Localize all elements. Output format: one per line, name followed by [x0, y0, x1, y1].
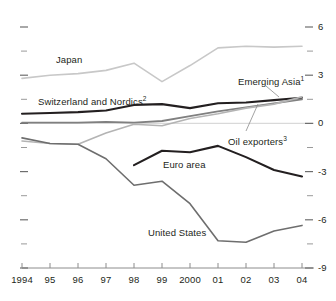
series-label-text: Japan [56, 54, 82, 65]
line-chart-plot [0, 0, 336, 301]
series-line-euro-area [134, 146, 302, 177]
x-axis-tick-label: 95 [45, 274, 56, 285]
x-axis-tick-label: 2000 [179, 274, 201, 285]
y-axis-tick-label: -6 [318, 214, 327, 225]
x-axis-tick-label: 98 [129, 274, 140, 285]
series-label-euro-area: Euro area [163, 159, 206, 170]
series-label-footnote: 2 [143, 95, 147, 102]
y-axis-tick-label: 3 [318, 69, 323, 80]
series-label-united-states: United States [148, 227, 206, 238]
series-label-text: Switzerland and Nordics [38, 96, 143, 107]
x-axis-tick-label: 01 [213, 274, 224, 285]
series-label-footnote: 1 [301, 75, 305, 82]
leader-line-emerging-asia [266, 86, 279, 97]
x-axis-tick-label: 99 [157, 274, 168, 285]
chart-container: 630-3-6-919949596979899200001020304Japan… [0, 0, 336, 301]
x-axis-tick-label: 97 [101, 274, 112, 285]
series-label-text: Oil exporters [228, 136, 283, 147]
series-label-switzerland-and-nordics: Switzerland and Nordics2 [38, 96, 147, 107]
series-label-oil-exporters: Oil exporters3 [228, 136, 287, 147]
series-label-text: Emerging Asia [238, 76, 301, 87]
x-axis-tick-label: 04 [297, 274, 308, 285]
x-axis-tick-label: 96 [73, 274, 84, 285]
x-axis-tick-label: 03 [269, 274, 280, 285]
series-label-japan: Japan [56, 54, 82, 65]
series-label-text: Euro area [163, 159, 206, 170]
y-axis-tick-label: 0 [318, 117, 323, 128]
series-label-text: United States [148, 227, 206, 238]
y-axis-tick-label: -3 [318, 166, 327, 177]
series-label-emerging-asia: Emerging Asia1 [238, 76, 304, 87]
x-axis-tick-label: 02 [241, 274, 252, 285]
y-axis-tick-label: 6 [318, 21, 323, 32]
series-label-footnote: 3 [283, 135, 287, 142]
y-axis-tick-label: -9 [318, 262, 327, 273]
x-axis-tick-label: 1994 [11, 274, 33, 285]
